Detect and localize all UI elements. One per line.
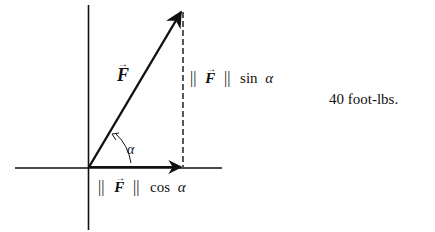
vector-arrow-icon: → bbox=[115, 173, 125, 183]
alpha-symbol: α bbox=[178, 179, 186, 195]
vector-arrow-icon: → bbox=[206, 64, 216, 74]
vector-arrow-icon: → bbox=[118, 59, 128, 69]
norm-bar-right: || bbox=[133, 178, 139, 195]
norm-bar-left: || bbox=[190, 69, 196, 86]
norm-bar-left: || bbox=[98, 178, 104, 195]
force-decomposition-diagram bbox=[0, 0, 435, 232]
cos-text: cos bbox=[150, 179, 170, 195]
norm-bar-right: || bbox=[224, 69, 230, 86]
alpha-symbol: α bbox=[265, 70, 273, 86]
force-label: →F bbox=[117, 66, 129, 84]
force-vector bbox=[89, 12, 181, 167]
angle-label: α bbox=[127, 143, 134, 157]
sin-component-label: || →F || sin α bbox=[190, 70, 273, 86]
sin-text: sin bbox=[240, 70, 258, 86]
cos-component-label: || →F || cos α bbox=[98, 179, 186, 195]
alpha-symbol: α bbox=[127, 142, 134, 157]
side-note: 40 foot-lbs. bbox=[329, 92, 398, 107]
